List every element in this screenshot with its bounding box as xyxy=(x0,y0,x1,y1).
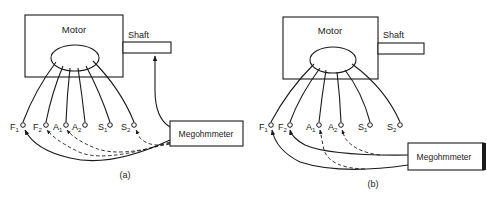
terminal-label-s1: S1 xyxy=(98,122,108,133)
terminal-label-a2: A2 xyxy=(328,122,338,133)
wire-meter-to-a1 xyxy=(67,130,170,152)
terminal-a1 xyxy=(64,123,69,128)
shaft-label: Shaft xyxy=(128,30,150,40)
megohmmeter-label: Megohmmeter xyxy=(417,152,472,162)
terminal-label-s2: S2 xyxy=(387,122,397,133)
megohmmeter-edge xyxy=(482,143,486,170)
terminal-label-s2: S2 xyxy=(121,122,131,133)
terminal-label-f1: F1 xyxy=(259,122,269,133)
terminal-a1 xyxy=(317,123,322,128)
caption-a: (a) xyxy=(120,170,131,180)
terminals-b: F1 F2 A1 A2 S1 S2 xyxy=(259,122,402,133)
shaft xyxy=(378,43,424,54)
caption-b: (b) xyxy=(368,179,379,189)
terminal-f2 xyxy=(288,123,293,128)
motor-label: Motor xyxy=(62,24,86,35)
terminal-f1 xyxy=(269,123,274,128)
panel-a: Motor Shaft F1 F2 A1 A2 S1 S2 Megohmmete xyxy=(10,15,243,180)
diagram-stage: Motor Shaft F1 F2 A1 A2 S1 S2 Megohmmete xyxy=(0,0,487,197)
terminals-a: F1 F2 A1 A2 S1 S2 xyxy=(10,122,136,133)
terminal-s1 xyxy=(368,123,373,128)
terminal-f1 xyxy=(21,123,26,128)
terminal-label-a1: A1 xyxy=(53,122,63,133)
shaft xyxy=(123,42,171,53)
terminal-a2 xyxy=(83,123,88,128)
terminal-s2 xyxy=(132,123,137,128)
wire-meter-to-a2 xyxy=(342,130,380,155)
terminal-label-a1: A1 xyxy=(306,122,316,133)
wire-meter-to-f2 xyxy=(47,130,170,156)
panel-b: Motor Shaft F1 F2 A1 A2 S1 S2 Megohmmete… xyxy=(259,17,486,189)
terminal-label-f2: F2 xyxy=(278,122,288,133)
shaft-label: Shaft xyxy=(383,30,405,40)
wire-meter-to-a1 xyxy=(320,130,365,169)
terminal-s2 xyxy=(398,123,403,128)
terminal-label-s1: S1 xyxy=(358,122,368,133)
terminal-s1 xyxy=(108,123,113,128)
wire-meter-to-shaft xyxy=(155,56,170,127)
terminal-a2 xyxy=(339,123,344,128)
megohmmeter-label: Megohmmeter xyxy=(179,129,234,139)
motor-label: Motor xyxy=(318,25,342,36)
terminal-label-f1: F1 xyxy=(10,122,20,133)
wire-meter-to-f2 xyxy=(290,130,408,155)
terminal-label-f2: F2 xyxy=(33,122,43,133)
terminal-label-a2: A2 xyxy=(72,122,82,133)
terminal-f2 xyxy=(44,123,49,128)
